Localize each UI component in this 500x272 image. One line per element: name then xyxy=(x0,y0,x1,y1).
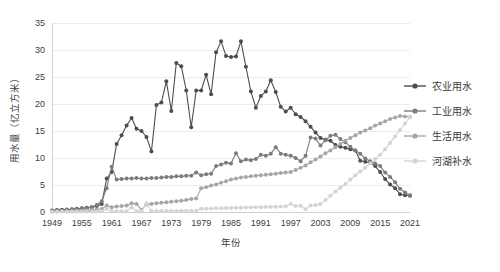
legend-item-4[interactable]: 河湖补水 xyxy=(404,155,472,167)
data-point xyxy=(314,203,318,207)
data-point xyxy=(343,182,347,186)
data-point xyxy=(149,209,153,213)
data-point xyxy=(115,209,119,213)
data-point xyxy=(338,142,342,146)
data-point xyxy=(120,209,124,213)
data-point xyxy=(378,170,382,174)
data-point xyxy=(229,178,233,182)
data-point xyxy=(249,174,253,178)
data-point xyxy=(204,73,208,77)
data-point xyxy=(135,127,139,131)
x-axis-tick-label: 1997 xyxy=(281,218,301,228)
data-point xyxy=(55,210,59,214)
data-point xyxy=(309,135,313,139)
data-point xyxy=(135,176,139,180)
data-point xyxy=(169,109,173,113)
data-point xyxy=(130,205,134,209)
y-axis-tick-label: 0 xyxy=(40,207,45,217)
data-point xyxy=(314,137,318,141)
legend-marker-icon xyxy=(412,133,417,138)
data-point xyxy=(204,172,208,176)
data-point xyxy=(304,164,308,168)
legend-item-3[interactable]: 生活用水 xyxy=(404,130,472,142)
data-point xyxy=(309,204,313,208)
data-point xyxy=(279,152,283,156)
legend-item-1[interactable]: 农业用水 xyxy=(404,80,472,92)
data-point xyxy=(179,209,183,213)
y-axis-title: 用水量（亿立方米） xyxy=(9,73,20,163)
data-point xyxy=(338,186,342,190)
x-axis-tick-label: 1949 xyxy=(42,218,62,228)
data-point xyxy=(174,209,178,213)
data-point xyxy=(373,157,377,161)
data-point xyxy=(259,94,263,98)
data-point xyxy=(304,207,308,211)
data-point xyxy=(219,162,223,166)
data-point xyxy=(294,168,298,172)
data-point xyxy=(184,89,188,93)
data-point xyxy=(189,197,193,201)
data-point xyxy=(194,89,198,93)
data-point xyxy=(254,205,258,209)
data-point xyxy=(254,106,258,110)
data-point xyxy=(269,78,273,82)
data-point xyxy=(234,206,238,210)
data-point xyxy=(328,194,332,198)
water-usage-line-chart: 0510152025303519491955196119671973197919… xyxy=(0,0,500,272)
data-point xyxy=(209,206,213,210)
data-point xyxy=(284,204,288,208)
data-point xyxy=(249,205,253,209)
data-point xyxy=(144,135,148,139)
data-point xyxy=(229,206,233,210)
data-point xyxy=(244,206,248,210)
data-point xyxy=(274,90,278,94)
data-point xyxy=(338,137,342,141)
data-point xyxy=(219,39,223,43)
data-point xyxy=(95,203,99,207)
data-point xyxy=(214,50,218,54)
legend-item-2[interactable]: 工业用水 xyxy=(404,106,472,117)
data-point xyxy=(239,159,243,163)
data-point xyxy=(65,210,69,214)
data-point xyxy=(224,161,228,165)
data-point xyxy=(115,142,119,146)
data-point xyxy=(319,144,323,148)
series-line xyxy=(52,135,410,211)
data-point xyxy=(348,178,352,182)
data-point xyxy=(363,166,367,170)
data-point xyxy=(224,54,228,58)
data-point xyxy=(274,145,278,149)
data-point xyxy=(239,206,243,210)
data-point xyxy=(333,133,337,137)
data-point xyxy=(179,199,183,203)
data-point xyxy=(234,177,238,181)
data-point xyxy=(358,131,362,135)
data-point xyxy=(50,210,54,214)
data-point xyxy=(358,170,362,174)
data-point xyxy=(363,128,367,132)
data-point xyxy=(378,153,382,157)
legend-label: 农业用水 xyxy=(432,80,472,92)
data-point xyxy=(140,209,144,213)
data-point xyxy=(378,121,382,125)
data-point xyxy=(319,202,323,206)
data-point xyxy=(209,92,213,96)
data-point xyxy=(398,114,402,118)
x-axis-tick-label: 1961 xyxy=(102,218,122,228)
data-point xyxy=(328,134,332,138)
data-point xyxy=(204,207,208,211)
data-point xyxy=(304,154,308,158)
data-point xyxy=(105,207,109,211)
data-point xyxy=(159,209,163,213)
legend-label: 工业用水 xyxy=(432,106,472,117)
y-axis-tick-label: 25 xyxy=(35,72,45,82)
data-point xyxy=(299,159,303,163)
legend-marker-icon xyxy=(412,108,417,113)
data-point xyxy=(368,161,372,165)
data-point xyxy=(169,200,173,204)
data-point xyxy=(264,173,268,177)
data-point xyxy=(274,172,278,176)
data-point xyxy=(254,174,258,178)
data-point xyxy=(348,145,352,149)
legend-label: 生活用水 xyxy=(432,130,472,142)
